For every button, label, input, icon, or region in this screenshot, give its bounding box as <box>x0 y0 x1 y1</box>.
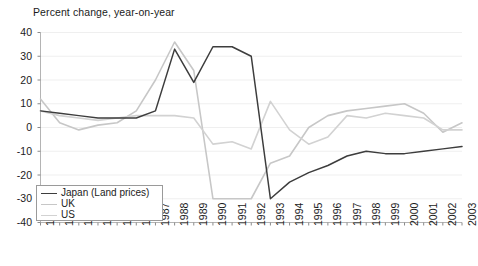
x-tick-label: 2003 <box>467 203 477 226</box>
legend-swatch-line-icon <box>41 193 57 194</box>
x-tick-label: 1992 <box>256 203 266 226</box>
y-tick-label: 20 <box>6 75 32 85</box>
series-line-japan-land-prices <box>41 47 463 199</box>
y-tick-label: 40 <box>6 27 32 37</box>
x-tick-label: 1996 <box>332 203 342 226</box>
y-tick-label: 10 <box>6 98 32 108</box>
legend-item-label: Japan (Land prices) <box>61 188 149 198</box>
x-tick-label: 1998 <box>371 203 381 226</box>
y-tick-label: -10 <box>6 146 32 156</box>
y-tick-label: 0 <box>6 122 32 132</box>
legend-item: UK <box>41 199 162 210</box>
legend-item: US <box>41 210 162 221</box>
x-tick-label: 1994 <box>294 203 304 226</box>
x-tick-label: 2001 <box>428 203 438 226</box>
x-tick-label: 1990 <box>217 203 227 226</box>
x-tick-label: 1995 <box>313 203 323 226</box>
legend-item-label: UK <box>61 199 75 209</box>
x-tick-label: 1989 <box>198 203 208 226</box>
x-tick-label: 1988 <box>179 203 189 226</box>
legend-swatch-line-icon <box>41 215 57 216</box>
x-tick-label: 2002 <box>447 203 457 226</box>
x-tick-label: 1999 <box>390 203 400 226</box>
x-tick-label: 1993 <box>275 203 285 226</box>
x-tick-label: 1997 <box>352 203 362 226</box>
y-tick-label: 30 <box>6 51 32 61</box>
legend-item-label: US <box>61 210 75 220</box>
legend-swatch-line-icon <box>41 204 57 205</box>
x-tick-label: 1991 <box>237 203 247 226</box>
legend-item: Japan (Land prices) <box>41 188 162 199</box>
x-tick-label: 2000 <box>409 203 419 226</box>
y-tick-label: -40 <box>6 217 32 227</box>
y-tick-label: -20 <box>6 170 32 180</box>
y-tick-label: -30 <box>6 193 32 203</box>
chart-legend: Japan (Land prices)UKUS <box>36 185 163 221</box>
